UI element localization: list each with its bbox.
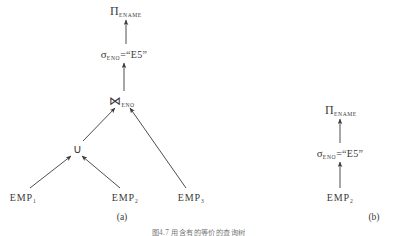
figure-caption: 图4.7 用含有的等价的查询树 bbox=[152, 227, 246, 236]
node-relation-emp2-a: EMP2 bbox=[112, 188, 139, 204]
join-subscript-a: ENO bbox=[121, 102, 134, 108]
panel-label-b: (b) bbox=[368, 212, 379, 222]
selection-condition-a: =“E5” bbox=[120, 49, 147, 60]
node-projection-ename-b: ΠENAME bbox=[325, 101, 357, 117]
node-relation-emp2-b: EMP2 bbox=[327, 188, 354, 204]
edge-emp1-to-union bbox=[30, 156, 71, 188]
relation-name-emp2-b: EMP bbox=[327, 192, 350, 203]
relation-subscript-emp1: 1 bbox=[33, 198, 36, 204]
projection-subscript-a: ENAME bbox=[119, 12, 142, 18]
node-projection-ename-a: ΠENAME bbox=[110, 2, 142, 18]
projection-symbol-b: Π bbox=[325, 103, 334, 117]
projection-symbol-a: Π bbox=[110, 4, 119, 18]
selection-condition-b: =“E5” bbox=[336, 148, 363, 159]
relation-subscript-emp3: 3 bbox=[201, 198, 204, 204]
edge-emp2-to-union bbox=[82, 156, 120, 188]
selection-subscript-b: ENO bbox=[323, 154, 336, 160]
edge-emp3-to-join bbox=[130, 108, 186, 188]
selection-subscript-a: ENO bbox=[107, 55, 120, 61]
union-symbol-a: ∪ bbox=[73, 142, 82, 156]
query-tree-figure: ΠENAME σENO=“E5” ⋈ENO ∪ EMP1 EMP2 EMP3 (… bbox=[0, 0, 397, 236]
relation-subscript-emp2-a: 2 bbox=[135, 198, 138, 204]
node-join-eno-a: ⋈ENO bbox=[109, 92, 135, 108]
node-selection-eno-a: σENO=“E5” bbox=[101, 45, 148, 61]
relation-name-emp2-a: EMP bbox=[112, 192, 135, 203]
projection-subscript-b: ENAME bbox=[334, 111, 357, 117]
join-symbol-a: ⋈ bbox=[109, 94, 121, 108]
node-relation-emp3: EMP3 bbox=[178, 188, 205, 204]
relation-subscript-emp2-b: 2 bbox=[350, 198, 353, 204]
relation-name-emp3: EMP bbox=[178, 192, 201, 203]
node-union-a: ∪ bbox=[73, 140, 82, 156]
relation-name-emp1: EMP bbox=[10, 192, 33, 203]
panel-label-a: (a) bbox=[117, 212, 128, 222]
edge-union-to-join bbox=[83, 108, 115, 141]
node-selection-eno-b: σENO=“E5” bbox=[317, 144, 364, 160]
node-relation-emp1: EMP1 bbox=[10, 188, 37, 204]
